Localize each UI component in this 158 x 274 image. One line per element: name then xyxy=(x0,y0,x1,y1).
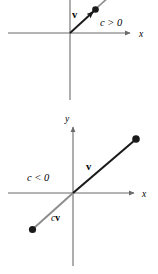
vector-scalar-multiplication-figure: v c > 0 x c < 0 v cv x y xyxy=(0,0,158,274)
bottom-panel-vector-endpoint-dot xyxy=(132,135,140,143)
positive-scalar-panel: v c > 0 x xyxy=(8,0,144,100)
bottom-panel-scaled-vector-symbol: v xyxy=(55,213,60,223)
top-panel-x-axis-label: x xyxy=(138,29,144,39)
bottom-panel-condition-label: c < 0 xyxy=(27,172,50,183)
negative-scalar-panel: c < 0 v cv x y xyxy=(8,114,147,266)
top-panel-vector-label: v xyxy=(72,9,78,20)
bottom-panel-y-axis-label: y xyxy=(64,114,70,124)
top-panel-condition-label: c > 0 xyxy=(100,17,123,28)
top-panel-vector-endpoint-dot xyxy=(92,6,99,13)
bottom-panel-vector-v xyxy=(73,140,135,193)
bottom-panel-x-axis-label: x xyxy=(141,189,147,199)
bottom-panel-scaled-vector-label: cv xyxy=(51,213,60,223)
bottom-panel-vector-label: v xyxy=(86,161,92,172)
bottom-panel-scaled-vector-endpoint-dot xyxy=(29,226,36,233)
